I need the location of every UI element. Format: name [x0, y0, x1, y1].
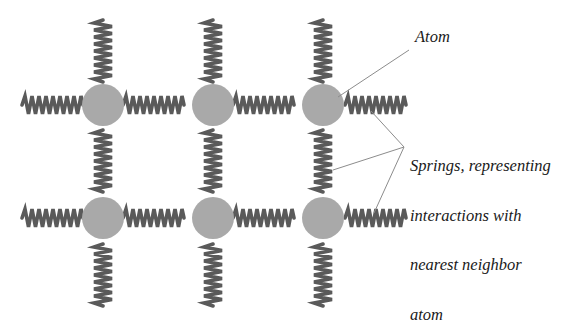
atom-pointer	[338, 50, 409, 97]
spring-pointer-3	[374, 147, 404, 213]
atom	[82, 84, 124, 126]
atom	[82, 197, 124, 239]
springs-label-line-4: atom	[410, 307, 551, 324]
spring-pointer-2	[333, 147, 404, 170]
springs-label-line-2: interactions with	[410, 208, 551, 225]
atom	[302, 197, 344, 239]
springs-vertical	[94, 20, 332, 306]
atom	[192, 197, 234, 239]
springs-label-line-1: Springs, representing	[410, 158, 551, 175]
spring-pointer-1	[371, 111, 404, 147]
atom	[192, 84, 234, 126]
springs-label: Springs, representing interactions with …	[410, 125, 551, 327]
pointer-lines	[333, 50, 409, 213]
springs-label-line-3: nearest neighbor	[410, 257, 551, 274]
atom-label: Atom	[415, 29, 450, 46]
atom	[302, 84, 344, 126]
